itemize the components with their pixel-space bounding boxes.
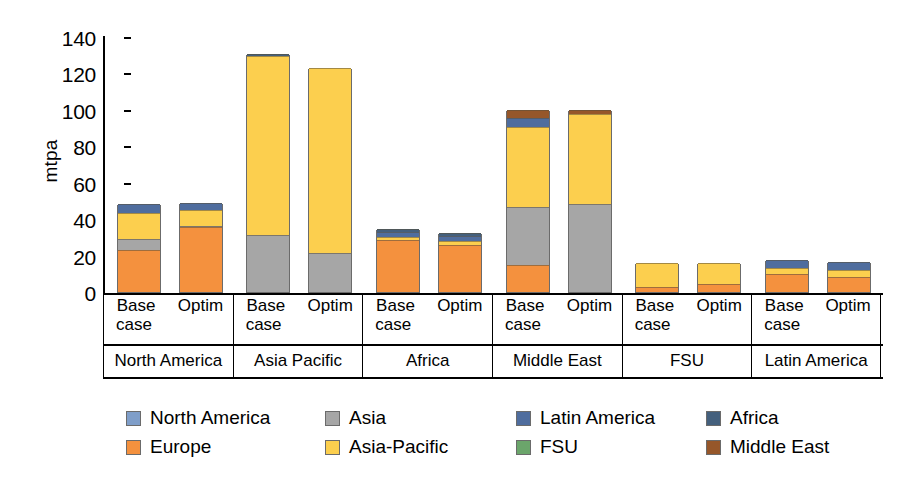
bar-segment[interactable] (766, 274, 808, 292)
bar-segment[interactable] (309, 253, 351, 292)
stacked-bar[interactable] (376, 230, 420, 293)
legend-label: Europe (150, 437, 211, 457)
legend-swatch (706, 411, 721, 426)
bar-segment[interactable] (247, 54, 289, 56)
y-axis-tick-label: 40 (32, 210, 96, 231)
legend-item[interactable]: Asia-Pacific (325, 437, 448, 457)
stacked-bar[interactable] (568, 111, 612, 293)
bar-segment[interactable] (766, 268, 808, 273)
legend-swatch (126, 411, 141, 426)
bar-segment[interactable] (377, 229, 419, 231)
legend-item[interactable]: FSU (516, 437, 578, 457)
category-divider (103, 344, 883, 346)
y-axis-tick-label: 100 (32, 100, 96, 121)
subcategory-label: Optim (298, 296, 362, 334)
bar-segment[interactable] (180, 226, 222, 228)
stacked-bar[interactable] (635, 264, 679, 293)
bar-segment[interactable] (439, 245, 481, 292)
stacked-bar-chart: mtpa 020406080100120140 BasecaseOptimNor… (0, 0, 901, 483)
bar-segment[interactable] (118, 239, 160, 250)
legend-label: North America (150, 408, 270, 428)
subcategory-label-line2: case (493, 315, 557, 334)
legend-swatch (325, 440, 340, 455)
bar-segment[interactable] (569, 204, 611, 292)
stacked-bar[interactable] (697, 264, 741, 293)
subcategory-label: Optim (687, 296, 751, 334)
bar-segment[interactable] (636, 263, 678, 288)
bar-segment[interactable] (507, 127, 549, 207)
legend-label: Asia (349, 408, 386, 428)
subcategory-label-line1: Base (363, 296, 427, 315)
bar-segment[interactable] (828, 270, 870, 276)
bar-segment[interactable] (569, 114, 611, 203)
subcategory-label-line2: case (234, 315, 298, 334)
category-axis-table: BasecaseOptimNorth AmericaBasecaseOptimA… (103, 295, 883, 378)
bar-segment[interactable] (569, 110, 611, 115)
bar-segment[interactable] (439, 241, 481, 245)
bar-segment[interactable] (180, 203, 222, 210)
subcategory-cell: BasecaseOptim (492, 295, 622, 344)
subcategory-label-line1: Optim (298, 296, 362, 315)
bar-segment[interactable] (180, 227, 222, 292)
stacked-bar[interactable] (827, 263, 871, 293)
y-axis-tick-label: 60 (32, 173, 96, 194)
bar-segment[interactable] (439, 233, 481, 235)
group-label: Africa (362, 344, 492, 377)
stacked-bar[interactable] (765, 261, 809, 293)
bar-segment[interactable] (377, 237, 419, 239)
bar-segment[interactable] (439, 236, 481, 241)
legend-swatch (126, 440, 141, 455)
bar-segment[interactable] (698, 263, 740, 284)
bar-segment[interactable] (118, 213, 160, 239)
bar-segment[interactable] (118, 204, 160, 213)
bar-segment[interactable] (247, 56, 289, 235)
bar-segment[interactable] (698, 284, 740, 292)
bar-segment[interactable] (636, 287, 678, 292)
bar-segment[interactable] (766, 260, 808, 268)
group-label: Middle East (492, 344, 622, 377)
legend-item[interactable]: Middle East (706, 437, 829, 457)
stacked-bar[interactable] (179, 204, 223, 293)
y-axis-tick-label: 80 (32, 137, 96, 158)
bar-segment[interactable] (180, 210, 222, 225)
stacked-bar[interactable] (308, 69, 352, 293)
y-axis-tick-label: 120 (32, 64, 96, 85)
stacked-bar[interactable] (438, 234, 482, 293)
subcategory-cell: BasecaseOptim (103, 295, 233, 344)
legend-item[interactable]: Latin America (516, 408, 655, 428)
y-axis-ticks: 020406080100120140 (28, 0, 96, 483)
y-axis-tick-label: 0 (32, 283, 96, 304)
subcategory-label-line2: case (363, 315, 427, 334)
bar-segment[interactable] (309, 68, 351, 253)
legend-swatch (516, 440, 531, 455)
bar-group (494, 38, 624, 293)
legend-item[interactable]: Africa (706, 408, 779, 428)
bar-group (753, 38, 883, 293)
subcategory-label-line1: Optim (687, 296, 751, 315)
bar-segment[interactable] (247, 235, 289, 292)
bar-segment[interactable] (507, 265, 549, 292)
plot-area (105, 38, 883, 293)
subcategory-label: Basecase (623, 296, 687, 334)
subcategory-label: Basecase (493, 296, 557, 334)
subcategory-label-line1: Base (234, 296, 298, 315)
stacked-bar[interactable] (246, 55, 290, 293)
bar-segment[interactable] (507, 110, 549, 117)
legend-item[interactable]: Asia (325, 408, 386, 428)
legend-label: Latin America (540, 408, 655, 428)
bar-segment[interactable] (377, 240, 419, 292)
subcategory-label-line2: case (752, 315, 816, 334)
bar-segment[interactable] (828, 262, 870, 270)
stacked-bar[interactable] (506, 111, 550, 293)
bar-segment[interactable] (118, 250, 160, 292)
subcategory-label-line1: Base (104, 296, 168, 315)
legend-item[interactable]: North America (126, 408, 270, 428)
bar-segment[interactable] (377, 232, 419, 238)
bar-segment[interactable] (507, 207, 549, 265)
bar-segment[interactable] (507, 118, 549, 127)
legend-item[interactable]: Europe (126, 437, 211, 457)
bar-segment[interactable] (828, 277, 870, 292)
bar-group (105, 38, 235, 293)
legend-swatch (325, 411, 340, 426)
stacked-bar[interactable] (117, 205, 161, 293)
